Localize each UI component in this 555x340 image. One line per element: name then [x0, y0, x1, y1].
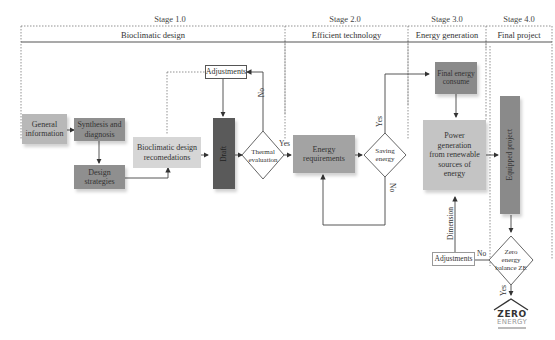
logo-underline — [498, 327, 526, 329]
node-equipped-project: Equipped project — [500, 96, 520, 214]
node-final-energy-consume: Final energy consume — [435, 62, 477, 94]
section-final-project: Final project — [486, 28, 552, 42]
node-bioclimatic-recommendations: Bioclimatic design recomedations — [133, 137, 201, 168]
node-synthesis-diagnosis: Synthesis and diagnosis — [74, 118, 125, 141]
node-general-information: General information — [22, 114, 67, 144]
node-saving-energy: Saving energy — [367, 146, 403, 164]
node-adjustments-top: Adjustments — [205, 65, 247, 79]
label-saving-yes: Yes — [375, 116, 384, 127]
node-draft: Draft — [213, 118, 235, 189]
node-adjustments-bottom: Adjustments — [432, 252, 475, 266]
node-power-generation: Power generation from renewable sources … — [423, 120, 486, 190]
label-thermal-no: No — [257, 88, 266, 97]
label-thermal-yes: Yes — [279, 139, 290, 148]
label-ze-yes: Yes — [499, 285, 508, 296]
stage-1-label: Stage 1.0 — [130, 14, 210, 24]
section-efficient-technology: Efficient technology — [285, 28, 408, 42]
node-design-strategies: Design strategies — [74, 165, 125, 189]
label-saving-no: No — [388, 183, 397, 192]
stage-4-label: Stage 4.0 — [486, 14, 552, 24]
label-ze-no: No — [477, 249, 486, 258]
stage-3-label: Stage 3.0 — [408, 14, 486, 24]
stage-2-label: Stage 2.0 — [305, 14, 385, 24]
section-bioclimatic-design: Bioclimatic design — [21, 28, 285, 42]
zero-energy-logo: ZERO ENERGY — [494, 310, 530, 329]
label-dimension: Dimension — [446, 207, 455, 240]
node-zero-energy-balance: Zero energy balance ZE — [495, 243, 527, 277]
node-energy-requirements: Energy requirements — [293, 135, 355, 173]
logo-energy-text: ENERGY — [494, 319, 530, 326]
section-energy-generation: Energy generation — [408, 28, 486, 42]
node-thermal-evaluation: Thermal evaluation — [244, 147, 282, 165]
